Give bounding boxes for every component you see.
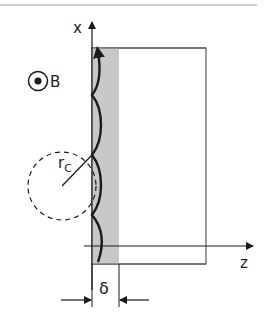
x-axis-label: x — [73, 19, 82, 37]
skin-depth-diagram: x z B rC δ — [0, 0, 267, 323]
field-label: B — [50, 73, 60, 91]
skin-depth-band — [92, 48, 119, 264]
z-axis-label: z — [240, 254, 248, 272]
radius-label: rC — [58, 154, 72, 175]
skin-depth-label: δ — [99, 279, 109, 298]
magnetic-field-out-of-page-icon — [29, 72, 48, 91]
